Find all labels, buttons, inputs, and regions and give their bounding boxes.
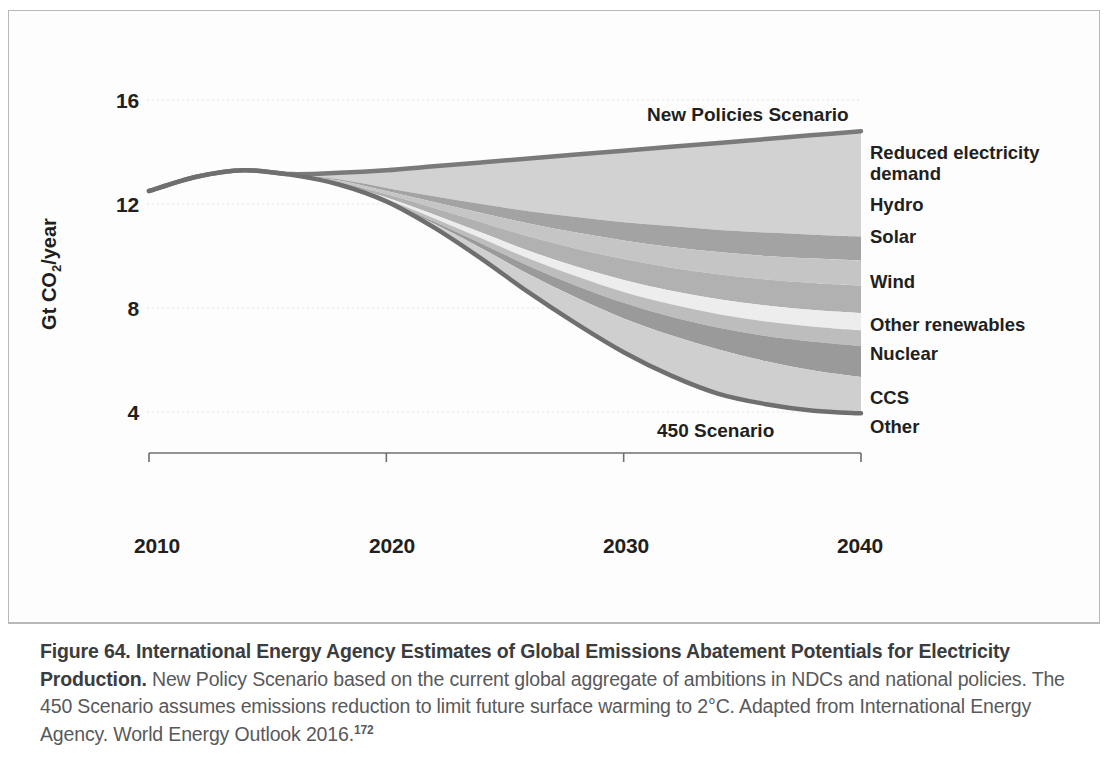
- figure-caption-body: New Policy Scenario based on the current…: [40, 668, 1065, 745]
- plot-area: 16 12 8 4 Gt CO2/year 2010 2020 2030 204…: [9, 11, 1101, 624]
- annotation-450-scenario: 450 Scenario: [657, 420, 774, 442]
- caption-divider: [8, 623, 1100, 624]
- y-axis-label-sub: 2: [49, 265, 64, 272]
- legend-item-other: Other: [870, 417, 919, 438]
- annotation-new-policies-scenario: New Policies Scenario: [647, 104, 849, 126]
- legend-item-ccs: CCS: [870, 388, 909, 409]
- legend-item-other-renewables: Other renewables: [870, 315, 1025, 336]
- figure-caption: Figure 64. International Energy Agency E…: [40, 638, 1080, 749]
- figure-page: 16 12 8 4 Gt CO2/year 2010 2020 2030 204…: [0, 0, 1109, 777]
- legend-item-solar: Solar: [870, 227, 916, 248]
- y-axis-label-suffix: /year: [38, 218, 60, 265]
- y-tick-12: 12: [99, 193, 139, 217]
- x-tick-2020: 2020: [347, 534, 437, 558]
- y-tick-8: 8: [99, 297, 139, 321]
- legend-item-nuclear: Nuclear: [870, 344, 938, 365]
- y-tick-16: 16: [99, 89, 139, 113]
- x-tick-2030: 2030: [581, 534, 671, 558]
- y-tick-4: 4: [99, 401, 139, 425]
- chart-card: 16 12 8 4 Gt CO2/year 2010 2020 2030 204…: [8, 10, 1100, 623]
- legend-item-hydro: Hydro: [870, 195, 923, 216]
- x-tick-2010: 2010: [112, 534, 202, 558]
- figure-caption-reference: 172: [354, 723, 374, 737]
- legend-item-reduced-electricity-demand: Reduced electricity demand: [870, 143, 1040, 184]
- y-axis-label: Gt CO2/year: [38, 194, 64, 354]
- legend-item-wind: Wind: [870, 272, 915, 293]
- y-axis-label-prefix: Gt CO: [38, 272, 60, 330]
- x-tick-2040: 2040: [815, 534, 905, 558]
